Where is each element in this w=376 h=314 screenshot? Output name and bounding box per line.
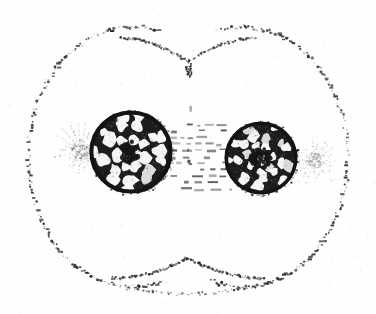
cell-division-illustration — [0, 0, 376, 314]
figure-root: Stippled line drawing of a cell undergoi… — [0, 0, 376, 314]
